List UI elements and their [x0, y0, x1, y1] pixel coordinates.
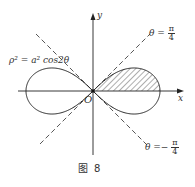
y-axis-label: y	[97, 11, 102, 20]
lower-line-label: θ =− π4	[145, 139, 179, 156]
origin-dot	[91, 89, 95, 93]
denominator: 4	[171, 148, 178, 156]
upper-line-lhs: θ =	[149, 28, 165, 38]
curve-equation-label: ρ² = a² cos2θ	[9, 56, 69, 65]
caption-prefix: 图	[78, 163, 94, 174]
figure-caption: 图8	[78, 160, 106, 175]
pi-over-4-fraction: π4	[168, 25, 175, 42]
y-axis-arrow-icon	[91, 13, 96, 20]
shaded-region	[93, 68, 160, 91]
minus-pi-over-4-fraction: π4	[171, 139, 178, 156]
origin-label: O	[84, 95, 92, 105]
upper-line-label: θ = π4	[149, 25, 175, 42]
caption-number: 8	[94, 163, 106, 174]
lower-line-lhs: θ =−	[145, 142, 168, 152]
denominator: 4	[168, 34, 175, 42]
x-axis-label: x	[178, 94, 183, 103]
